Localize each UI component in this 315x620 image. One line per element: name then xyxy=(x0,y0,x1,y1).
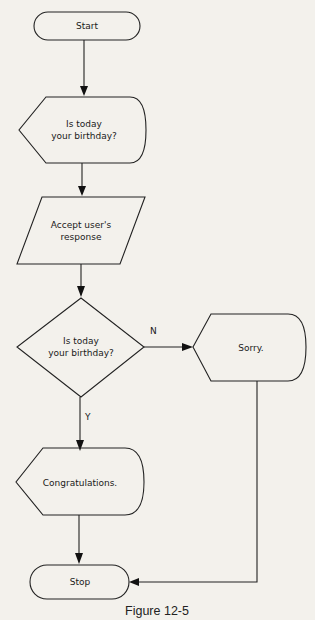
decision-line1: Is today xyxy=(63,336,99,346)
sorry-label: Sorry. xyxy=(238,343,263,353)
congrats-node: Congratulations. xyxy=(16,448,144,515)
arrow-head-icon xyxy=(77,286,85,297)
arrow-head-icon xyxy=(78,186,86,196)
display-question-line1: Is today xyxy=(66,119,102,129)
edge-sorry-to-stop xyxy=(129,381,257,586)
sorry-node: Sorry. xyxy=(193,314,306,381)
flowchart-diagram: Start Is today your birthday? Accept use… xyxy=(0,0,315,620)
arrow-head-icon xyxy=(75,553,83,564)
input-response-line1: Accept user's xyxy=(51,220,112,230)
stop-node: Stop xyxy=(30,565,129,599)
edge-input-to-decision xyxy=(77,264,85,297)
congrats-label: Congratulations. xyxy=(43,478,117,488)
no-label: N xyxy=(150,326,157,336)
edge-no-branch: N xyxy=(144,326,193,351)
display-question-node: Is today your birthday? xyxy=(19,97,146,163)
arrow-head-icon xyxy=(80,86,88,96)
arrow-head-icon xyxy=(129,578,139,586)
decision-node: Is today your birthday? xyxy=(17,298,144,397)
arrow-head-icon xyxy=(182,343,193,351)
arrow-head-icon xyxy=(76,440,84,451)
stop-label: Stop xyxy=(70,577,91,587)
decision-line2: your birthday? xyxy=(48,348,114,358)
edge-question-to-input xyxy=(78,163,86,196)
display-question-line2: your birthday? xyxy=(51,131,117,141)
yes-label: Y xyxy=(84,412,91,422)
start-label: Start xyxy=(76,21,98,31)
edge-yes-branch: Y xyxy=(76,397,91,451)
input-response-line2: response xyxy=(61,232,102,242)
edge-start-to-question xyxy=(80,40,88,96)
figure-caption: Figure 12-5 xyxy=(125,604,189,618)
input-response-node: Accept user's response xyxy=(17,197,145,264)
start-node: Start xyxy=(34,12,140,40)
edge-congrats-to-stop xyxy=(75,515,83,564)
